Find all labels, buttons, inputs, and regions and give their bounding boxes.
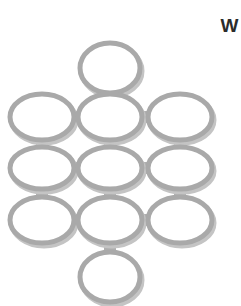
node-ellipse: [80, 43, 140, 93]
node-ellipse: [10, 197, 74, 243]
node-layer: [10, 43, 212, 302]
corner-label-w: W: [221, 16, 238, 35]
node-n-r2-center: [78, 94, 142, 140]
ellipse-network-diagram: [0, 0, 241, 306]
diagram-canvas: W: [0, 0, 241, 306]
node-n-r4-left: [10, 197, 74, 243]
node-ellipse: [148, 94, 212, 140]
node-n-bottom: [80, 252, 140, 302]
node-n-r2-right: [148, 94, 212, 140]
node-n-r4-center: [78, 197, 142, 243]
node-n-r2-left: [10, 94, 74, 140]
node-n-r4-right: [148, 197, 212, 243]
node-ellipse: [10, 147, 74, 189]
node-ellipse: [80, 252, 140, 302]
node-ellipse: [148, 147, 212, 189]
node-ellipse: [148, 197, 212, 243]
node-n-r3-right: [148, 147, 212, 189]
node-n-r3-center: [78, 147, 142, 189]
node-ellipse: [78, 197, 142, 243]
node-ellipse: [10, 94, 74, 140]
node-n-top: [80, 43, 140, 93]
node-n-r3-left: [10, 147, 74, 189]
node-ellipse: [78, 94, 142, 140]
node-ellipse: [78, 147, 142, 189]
